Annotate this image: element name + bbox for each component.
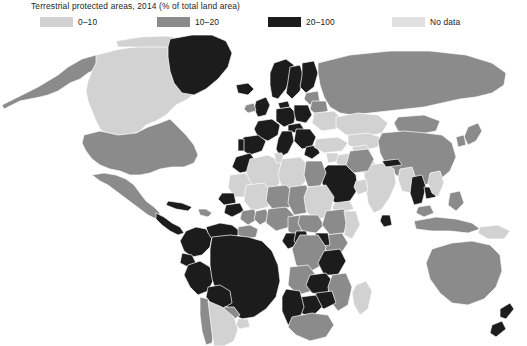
legend-label-high: 20–100 — [306, 17, 335, 27]
region-uruguay — [236, 319, 250, 329]
map-canvas — [0, 35, 527, 346]
legend: Terrestrial protected areas, 2014 (% of … — [0, 0, 527, 36]
legend-swatch-nodata — [392, 17, 425, 27]
legend-label-mid: 10–20 — [195, 17, 219, 27]
world-choropleth-svg — [0, 35, 527, 346]
region-korea — [456, 135, 466, 147]
region-portugal — [238, 139, 244, 151]
legend-swatch-mid — [157, 17, 190, 27]
world-map-figure: Terrestrial protected areas, 2014 (% of … — [0, 0, 527, 346]
legend-swatch-low — [40, 17, 73, 27]
legend-label-nodata: No data — [430, 17, 460, 27]
legend-swatch-high — [268, 17, 301, 27]
legend-label-low: 0–10 — [78, 17, 97, 27]
legend-title: Terrestrial protected areas, 2014 (% of … — [31, 1, 240, 11]
